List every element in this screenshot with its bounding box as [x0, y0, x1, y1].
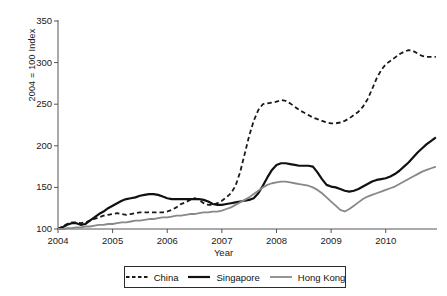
series-line-hong-kong	[58, 167, 436, 229]
legend-swatch-solid	[187, 273, 211, 281]
legend-entry-hong-kong[interactable]: Hong Kong	[269, 272, 346, 283]
legend-entry-china[interactable]: China	[125, 272, 179, 283]
legend-swatch-dashed	[125, 273, 149, 281]
legend-entry-singapore[interactable]: Singapore	[187, 272, 259, 283]
legend-label: Hong Kong	[298, 272, 346, 283]
legend-swatch-solid	[269, 273, 293, 281]
line-chart: 2004 = 100 Index 100150200250300350 2004…	[0, 0, 447, 296]
plot-area	[0, 0, 447, 296]
series-line-singapore	[58, 137, 436, 229]
series-line-china	[58, 50, 436, 229]
chart-legend: ChinaSingaporeHong Kong	[124, 266, 346, 288]
legend-label: China	[154, 272, 179, 283]
legend-label: Singapore	[216, 272, 259, 283]
